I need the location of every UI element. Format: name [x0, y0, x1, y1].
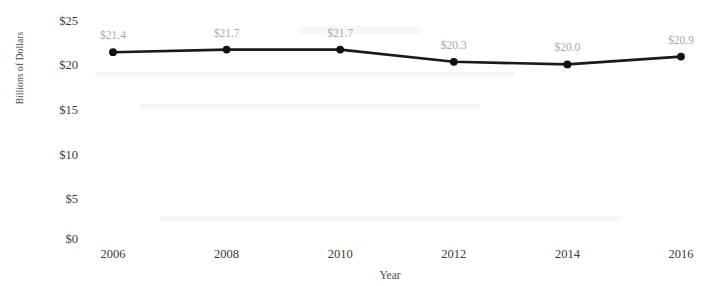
data-point-label: $20.3	[441, 39, 467, 52]
x-tick-label: 2016	[669, 247, 694, 261]
data-point-marker	[336, 46, 344, 54]
x-tick-label: 2012	[441, 247, 466, 261]
data-point-label: $21.4	[100, 29, 126, 42]
x-tick-label: 2010	[328, 247, 353, 261]
data-point-marker	[564, 61, 572, 69]
x-axis-title: Year	[379, 268, 400, 282]
plot-area: $21.4$21.7$21.7$20.3$20.0$20.9	[0, 0, 701, 286]
data-point-marker	[677, 53, 685, 61]
data-point-label: $21.7	[327, 27, 353, 40]
data-point-label: $20.9	[668, 34, 694, 47]
data-point-marker	[450, 58, 458, 66]
data-point-label: $21.7	[214, 27, 240, 40]
x-tick-label: 2008	[214, 247, 239, 261]
data-point-marker	[223, 46, 231, 54]
data-point-label: $20.0	[554, 41, 580, 54]
series-line-chart	[0, 0, 701, 286]
line-chart: Billions of Dollars $25 $20 $15 $10 $5 $…	[0, 0, 701, 286]
x-tick-label: 2006	[101, 247, 126, 261]
data-point-marker	[109, 48, 117, 56]
series-line	[113, 50, 681, 65]
x-tick-label: 2014	[555, 247, 580, 261]
